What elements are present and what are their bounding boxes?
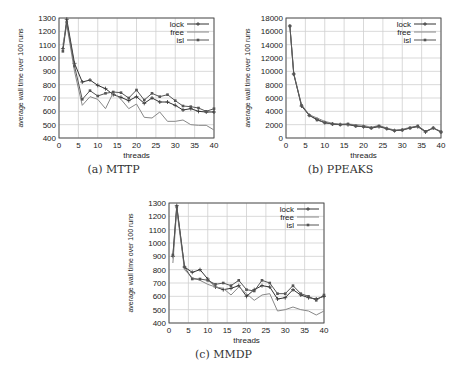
square-marker-icon — [385, 127, 388, 130]
square-marker-icon — [174, 99, 177, 102]
x-tick-label: 20 — [242, 326, 251, 335]
x-axis-label: threads — [350, 151, 377, 160]
x-tick-label: 10 — [93, 141, 102, 150]
y-tick-label: 8000 — [265, 81, 283, 90]
x-tick-label: 0 — [284, 141, 289, 150]
chart-caption: (a) MTTP — [0, 163, 227, 176]
y-tick-label: 1100 — [39, 41, 57, 50]
x-tick-label: 5 — [76, 141, 81, 150]
series-lock — [171, 204, 326, 301]
x-tick-label: 30 — [398, 141, 407, 150]
y-tick-label: 600 — [43, 107, 57, 116]
y-tick-label: 700 — [153, 279, 167, 288]
square-marker-icon — [331, 123, 334, 126]
y-tick-label: 1200 — [38, 27, 56, 36]
grid — [169, 203, 324, 323]
plus-marker-icon — [260, 284, 264, 288]
square-marker-icon — [214, 283, 217, 286]
y-tick-label: 600 — [153, 292, 167, 301]
square-marker-icon — [112, 91, 115, 94]
square-marker-icon — [299, 292, 302, 295]
x-tick-label: 40 — [437, 141, 446, 150]
chart-svg: 0510152025303540400500600700800900100011… — [0, 0, 227, 160]
series-free — [290, 26, 441, 131]
square-marker-icon — [158, 95, 161, 98]
x-tick-label: 35 — [417, 141, 426, 150]
square-marker-icon — [292, 73, 295, 76]
square-marker-icon — [409, 127, 412, 130]
plus-marker-icon — [197, 109, 201, 113]
square-marker-icon — [393, 129, 396, 132]
series-line — [290, 26, 441, 131]
y-tick-label: 1000 — [38, 54, 56, 63]
y-tick-label: 1300 — [148, 199, 166, 208]
grid — [59, 18, 214, 138]
x-tick-label: 0 — [57, 141, 62, 150]
y-tick-label: 14000 — [261, 41, 284, 50]
square-marker-icon — [237, 279, 240, 282]
square-marker-icon — [166, 93, 169, 96]
y-tick-label: 700 — [43, 94, 57, 103]
square-marker-icon — [300, 104, 303, 107]
y-tick-label: 1000 — [148, 239, 166, 248]
square-marker-icon — [62, 50, 65, 53]
y-tick-label: 500 — [43, 121, 57, 130]
legend-label: isl — [403, 36, 411, 45]
square-marker-icon — [143, 99, 146, 102]
series-isl — [289, 25, 443, 134]
x-tick-label: 15 — [223, 326, 232, 335]
chart-svg: 0510152025303540400500600700800900100011… — [110, 185, 337, 345]
square-marker-icon — [370, 127, 373, 130]
square-marker-icon — [424, 39, 427, 42]
x-tick-label: 15 — [340, 141, 349, 150]
square-marker-icon — [81, 98, 84, 101]
chart-ppeaks: 0510152025303540020004000600080001000012… — [227, 0, 454, 185]
square-marker-icon — [151, 92, 154, 95]
square-marker-icon — [127, 97, 130, 100]
square-marker-icon — [253, 290, 256, 293]
square-marker-icon — [96, 95, 99, 98]
plus-marker-icon — [80, 80, 84, 84]
square-marker-icon — [284, 292, 287, 295]
square-marker-icon — [73, 65, 76, 68]
x-tick-label: 25 — [261, 326, 270, 335]
square-marker-icon — [135, 89, 138, 92]
square-marker-icon — [197, 107, 200, 110]
square-marker-icon — [104, 92, 107, 95]
x-tick-label: 30 — [281, 326, 290, 335]
square-marker-icon — [191, 278, 194, 281]
y-tick-label: 400 — [153, 319, 167, 328]
plus-marker-icon — [196, 22, 200, 26]
y-tick-label: 4000 — [265, 107, 283, 116]
x-tick-label: 15 — [113, 141, 122, 150]
square-marker-icon — [245, 288, 248, 291]
square-marker-icon — [316, 119, 319, 122]
y-axis-label: average wall time over 100 runs — [127, 213, 135, 313]
square-marker-icon — [424, 130, 427, 133]
x-axis-label: threads — [123, 151, 150, 160]
y-tick-label: 6000 — [265, 94, 283, 103]
y-axis-label: average wall time over 100 runs — [244, 28, 252, 128]
y-tick-label: 800 — [153, 266, 167, 275]
y-tick-label: 18000 — [261, 14, 284, 23]
y-tick-label: 500 — [153, 306, 167, 315]
y-tick-label: 800 — [43, 81, 57, 90]
y-tick-label: 16000 — [261, 27, 284, 36]
square-marker-icon — [308, 114, 311, 117]
square-marker-icon — [416, 125, 419, 128]
y-tick-label: 1100 — [149, 226, 167, 235]
square-marker-icon — [230, 284, 233, 287]
grid — [286, 18, 441, 138]
x-tick-label: 10 — [320, 141, 329, 150]
x-tick-label: 0 — [167, 326, 172, 335]
square-marker-icon — [183, 266, 186, 269]
chart-caption: (c) MMDP — [110, 348, 337, 361]
plus-marker-icon — [212, 110, 216, 114]
y-tick-label: 1300 — [38, 14, 56, 23]
square-marker-icon — [268, 282, 271, 285]
square-marker-icon — [172, 254, 175, 257]
y-tick-label: 2000 — [265, 121, 283, 130]
y-axis-label: average wall time over 100 runs — [17, 28, 25, 128]
square-marker-icon — [307, 224, 310, 227]
y-tick-label: 1200 — [148, 212, 166, 221]
